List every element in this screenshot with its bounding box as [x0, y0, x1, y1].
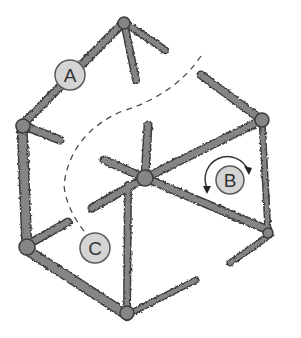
diagram-canvas: A B C [0, 0, 301, 338]
junction-upper-left [16, 119, 30, 133]
marker-a-label: A [64, 65, 77, 86]
junction-lower-right [263, 228, 273, 238]
rotation-arrowhead-left-icon [203, 186, 211, 194]
network-diagram: A B C [0, 0, 301, 338]
junction-top [118, 17, 130, 29]
marker-a: A [55, 60, 85, 90]
junction-bottom [120, 306, 134, 320]
junction-center-hub [137, 170, 153, 186]
junction-upper-right [255, 113, 269, 127]
marker-b: B [203, 157, 252, 194]
marker-c-label: C [88, 238, 102, 259]
rotation-arrowhead-right-icon [244, 166, 252, 175]
junction-lower-left [19, 239, 35, 255]
marker-b-label: B [224, 170, 237, 191]
dashed-path [64, 56, 201, 236]
marker-c: C [80, 233, 110, 263]
